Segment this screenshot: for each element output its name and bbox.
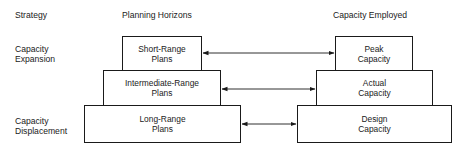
connector-arrows bbox=[0, 0, 470, 150]
